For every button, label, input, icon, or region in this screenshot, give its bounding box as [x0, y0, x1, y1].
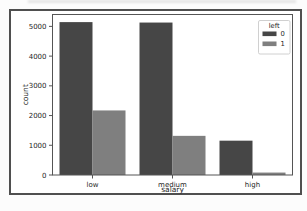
- bar-low-left-1: [93, 110, 126, 175]
- legend-swatch-0: [263, 32, 277, 37]
- y-tick-label-2000: 2000: [29, 112, 47, 120]
- bar-medium-left-1: [173, 136, 206, 175]
- bar-medium-left-0: [140, 23, 173, 175]
- x-tick-label-low: low: [87, 181, 99, 189]
- screenshot: 010002000300040005000lowmediumhighsalary…: [0, 0, 307, 211]
- y-tick-label-0: 0: [42, 172, 46, 180]
- legend-label-0: 0: [281, 30, 285, 38]
- y-tick-label-3000: 3000: [29, 82, 47, 90]
- legend-swatch-1: [263, 42, 277, 47]
- bar-low-left-0: [60, 22, 93, 175]
- x-tick-label-high: high: [245, 181, 260, 189]
- x-axis-label: salary: [161, 185, 184, 194]
- y-tick-label-1000: 1000: [29, 142, 47, 150]
- y-axis-label: count: [21, 84, 30, 105]
- bar-chart: 010002000300040005000lowmediumhighsalary…: [0, 0, 307, 211]
- legend-label-1: 1: [281, 40, 285, 48]
- bar-high-left-0: [220, 141, 253, 175]
- legend-title: left: [269, 22, 280, 30]
- y-tick-label-4000: 4000: [29, 53, 47, 61]
- y-tick-label-5000: 5000: [29, 23, 47, 31]
